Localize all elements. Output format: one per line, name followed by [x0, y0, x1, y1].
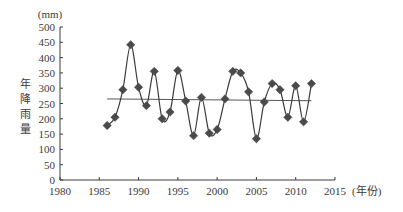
y-tick-label: 250: [39, 98, 56, 110]
x-tick-label: 1985: [88, 185, 111, 197]
data-point-marker: [252, 134, 260, 142]
data-point-marker: [284, 113, 292, 121]
data-point-marker: [111, 113, 119, 121]
data-point-marker: [292, 82, 300, 90]
x-tick-label: 2000: [206, 185, 229, 197]
y-axis-label-char: 降: [20, 92, 31, 106]
data-point-marker: [213, 125, 221, 133]
data-point-marker: [150, 67, 158, 75]
data-point-marker: [189, 131, 197, 139]
data-point-marker: [174, 66, 182, 74]
x-tick-label: 1995: [167, 185, 190, 197]
y-tick-label: 200: [39, 113, 56, 125]
axis-labels: 0501001502002503003504004505001980198519…: [20, 8, 382, 198]
y-tick-label: 100: [39, 143, 56, 155]
rainfall-chart: 0501001502002503003504004505001980198519…: [0, 0, 403, 212]
x-tick-label: 1990: [128, 185, 151, 197]
data-point-marker: [229, 67, 237, 75]
data-point-marker: [221, 95, 229, 103]
y-axis-label-char: 量: [20, 123, 31, 136]
data-point-marker: [299, 118, 307, 126]
y-tick-label: 50: [44, 159, 56, 171]
data-point-marker: [134, 83, 142, 91]
data-point-marker: [307, 79, 315, 87]
data-point-marker: [166, 108, 174, 116]
x-tick-label: 2015: [324, 185, 347, 197]
data-point-marker: [276, 86, 284, 94]
y-tick-label: 150: [39, 128, 56, 140]
y-tick-label: 300: [39, 82, 56, 94]
axes: [60, 27, 335, 180]
y-tick-label: 500: [39, 21, 56, 33]
data-point-marker: [127, 41, 135, 49]
data-point-marker: [197, 93, 205, 101]
data-point-marker: [119, 86, 127, 94]
y-tick-label: 400: [39, 52, 56, 64]
trend-line-segment: [107, 99, 311, 101]
rainfall-series: [103, 41, 316, 143]
x-axis-label: (年份): [352, 184, 382, 198]
x-tick-label: 2005: [245, 185, 268, 197]
data-point-marker: [260, 98, 268, 106]
data-point-marker: [268, 79, 276, 87]
y-axis-label-char: 年: [20, 77, 31, 91]
y-tick-label: 350: [39, 67, 56, 79]
y-axis-label-char: 雨: [20, 108, 31, 121]
data-point-marker: [103, 121, 111, 129]
x-tick-label: 1980: [49, 185, 72, 197]
data-point-marker: [182, 97, 190, 105]
data-point-marker: [244, 88, 252, 96]
trend-line: [107, 99, 311, 101]
y-unit-label: (mm): [38, 8, 63, 21]
x-tick-label: 2010: [285, 185, 308, 197]
y-tick-label: 450: [39, 36, 56, 48]
